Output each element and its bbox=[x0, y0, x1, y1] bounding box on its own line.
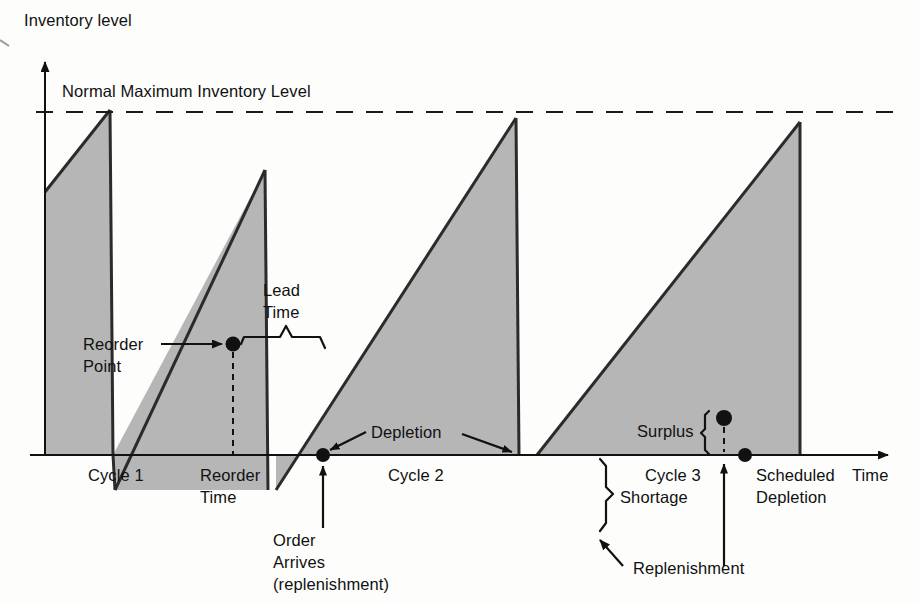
order-arrives-label-line1: Order bbox=[273, 531, 316, 549]
scheduled-depletion-annotation: Scheduled Depletion bbox=[738, 448, 835, 506]
lead-time-label-line2: Time bbox=[263, 303, 299, 321]
cycle-3-label: Cycle 3 bbox=[645, 466, 701, 484]
inventory-cycle-diagram: Inventory level Time Normal Maximum Inve… bbox=[0, 0, 920, 604]
scheduled-depletion-label-line2: Depletion bbox=[756, 488, 827, 506]
cycle-2-label: Cycle 2 bbox=[388, 466, 444, 484]
scheduled-depletion-label-line1: Scheduled bbox=[756, 466, 835, 484]
lead-time-label-line1: Lead bbox=[263, 281, 300, 299]
cycle-1-label: Cycle 1 bbox=[88, 466, 144, 484]
reorder-point-label-line1: Reorder bbox=[83, 335, 144, 353]
shortage-brace bbox=[600, 459, 613, 531]
page-edge-artifact bbox=[0, 40, 9, 46]
replenishment-leader-arrow bbox=[600, 540, 623, 566]
figure-canvas: Inventory level Time Normal Maximum Inve… bbox=[0, 0, 920, 604]
reorder-point-marker bbox=[226, 337, 241, 352]
reorder-point-label-line2: Point bbox=[83, 357, 121, 375]
shortage-label: Shortage bbox=[620, 488, 688, 506]
depletion-label: Depletion bbox=[371, 423, 442, 441]
y-axis-label: Inventory level bbox=[24, 11, 132, 29]
surplus-marker bbox=[716, 410, 732, 426]
order-arrives-marker bbox=[316, 448, 330, 462]
order-arrives-label-line2: Arrives bbox=[273, 553, 325, 571]
normal-maximum-inventory-level-label: Normal Maximum Inventory Level bbox=[62, 82, 311, 100]
x-axis-label: Time bbox=[852, 466, 888, 484]
scheduled-depletion-marker bbox=[738, 448, 752, 462]
reorder-time-label-line1: Reorder bbox=[200, 466, 261, 484]
replenishment-label: Replenishment bbox=[633, 559, 745, 577]
reorder-time-label-line2: Time bbox=[200, 488, 236, 506]
surplus-label: Surplus bbox=[637, 422, 694, 440]
order-arrives-label-line3: (replenishment) bbox=[273, 575, 389, 593]
